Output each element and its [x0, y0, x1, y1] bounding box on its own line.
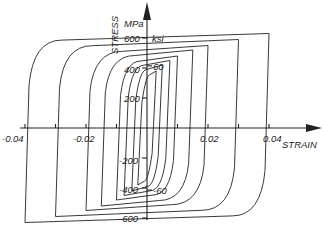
- strain-axis-label: STRAIN: [282, 139, 317, 150]
- y-tick-label-neg-600: -600: [119, 213, 139, 224]
- x-tick-label-002: 0.02: [200, 133, 219, 144]
- stress-axis-label: STRESS: [109, 15, 120, 54]
- ksi-tick-label-neg-60: -60: [153, 185, 167, 196]
- strain-axis-arrow-icon: [306, 124, 322, 132]
- y-tick-label-200: 200: [123, 93, 141, 104]
- stress-axis-arrow-icon: [143, 2, 151, 20]
- mpa-unit-label: MPa: [124, 18, 144, 29]
- x-tick-label-neg-002: -0.02: [73, 133, 95, 144]
- y-tick-label-400: 400: [124, 64, 141, 75]
- x-tick-label-004: 0.04: [263, 133, 282, 144]
- hysteresis-chart: STRESS MPa ksi STRAIN -0.04 -0.02 0.02 0…: [0, 0, 324, 231]
- y-tick-label-neg-200: -200: [119, 155, 139, 166]
- x-tick-label-neg-004: -0.04: [2, 133, 24, 144]
- ksi-tick-label-60: 60: [153, 61, 164, 72]
- y-tick-label-neg-400: -400: [119, 184, 139, 195]
- y-tick-label-600: 600: [124, 33, 141, 44]
- ksi-unit-label: ksi: [152, 33, 165, 44]
